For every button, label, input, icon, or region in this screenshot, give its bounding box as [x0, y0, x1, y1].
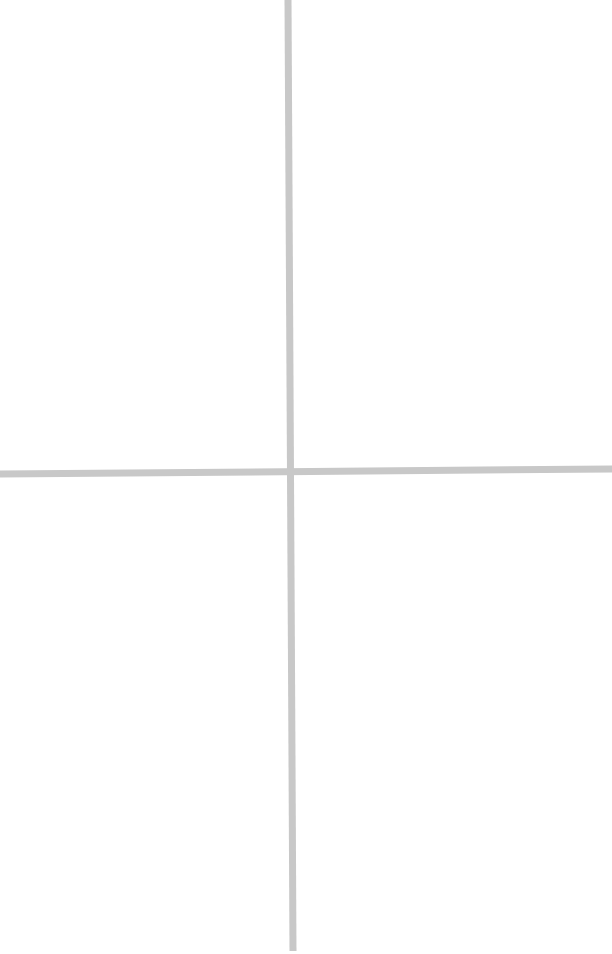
vertical-line — [288, 0, 293, 951]
cross-figure — [0, 0, 612, 954]
horizontal-line — [0, 469, 612, 474]
background — [0, 0, 612, 954]
